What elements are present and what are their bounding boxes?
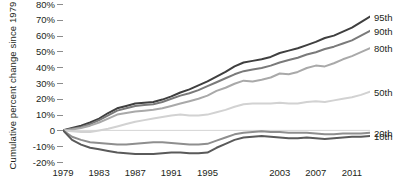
series-end-labels: 95th90th80th50th20th10th (0, 0, 418, 195)
series-label-10th: 10th (374, 131, 393, 140)
y-tick-mark (57, 99, 63, 100)
y-tick-mark (57, 130, 63, 131)
y-tick-mark (57, 162, 63, 163)
y-tick-mark (57, 36, 63, 37)
series-label-80th: 80th (374, 44, 393, 53)
y-tick-mark (57, 67, 63, 68)
y-tick-mark (57, 115, 63, 116)
y-tick-mark (57, 51, 63, 52)
y-tick-mark (57, 20, 63, 21)
series-label-95th: 95th (374, 12, 393, 21)
y-tick-mark (57, 83, 63, 84)
y-tick-mark (57, 146, 63, 147)
series-label-50th: 50th (374, 87, 393, 96)
y-tick-mark (57, 4, 63, 5)
series-label-90th: 90th (374, 26, 393, 35)
chart-container: Cumulative percent change since 1979 80%… (0, 0, 418, 195)
